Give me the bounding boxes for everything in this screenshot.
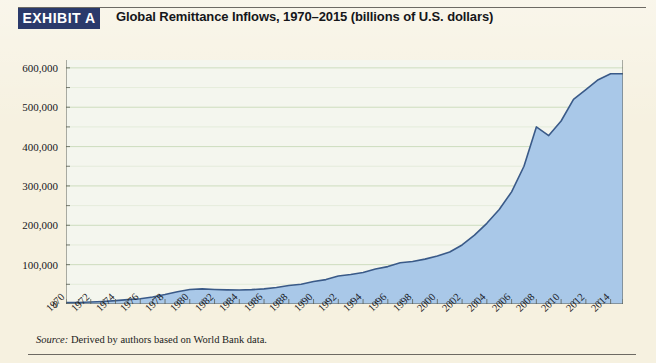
y-axis-labels: 0100,000200,000300,000400,000500,000600,… xyxy=(0,60,62,304)
area-chart-svg xyxy=(66,60,623,304)
y-axis-tick-label: 100,000 xyxy=(22,259,58,271)
bottom-divider xyxy=(28,354,636,355)
x-axis-labels: 1970197219741976197819801982198419861988… xyxy=(66,306,623,356)
y-axis-tick-label: 500,000 xyxy=(22,101,58,113)
y-axis-tick-label: 600,000 xyxy=(22,62,58,74)
y-axis-tick-label: 200,000 xyxy=(22,219,58,231)
page-title: Global Remittance Inflows, 1970–2015 (bi… xyxy=(116,9,493,24)
chart-container: 0100,000200,000300,000400,000500,000600,… xyxy=(0,36,656,326)
y-axis-tick-label: 400,000 xyxy=(22,141,58,153)
exhibit-header: EXHIBIT A Global Remittance Inflows, 197… xyxy=(0,0,656,36)
source-label: Source: xyxy=(36,334,68,345)
source-note: Source: Derived by authors based on Worl… xyxy=(36,334,267,345)
exhibit-badge: EXHIBIT A xyxy=(18,8,100,29)
y-axis-tick-label: 300,000 xyxy=(22,180,58,192)
exhibit-figure: EXHIBIT A Global Remittance Inflows, 197… xyxy=(0,0,656,363)
plot-area xyxy=(66,60,623,304)
header-divider xyxy=(18,7,646,8)
source-text: Derived by authors based on World Bank d… xyxy=(71,334,267,345)
